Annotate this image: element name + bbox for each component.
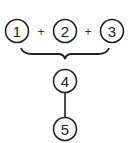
node-2-label: 2: [61, 23, 69, 40]
diagram-canvas: 1 + 2 + 3 4 5: [0, 0, 129, 143]
node-1-label: 1: [13, 23, 21, 40]
plus-operator-1: +: [37, 25, 44, 39]
node-4-label: 4: [61, 73, 69, 90]
brace-connector: [21, 48, 109, 59]
plus-operator-2: +: [84, 25, 91, 39]
node-5: 5: [54, 118, 77, 141]
node-1: 1: [6, 20, 29, 43]
node-2: 2: [54, 20, 77, 43]
node-3-label: 3: [108, 23, 116, 40]
node-3: 3: [101, 20, 124, 43]
node-4: 4: [54, 70, 77, 93]
node-5-label: 5: [61, 121, 69, 138]
